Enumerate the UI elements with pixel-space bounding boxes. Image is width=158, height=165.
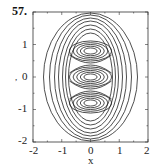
x-tick-1: 1 bbox=[117, 145, 123, 156]
y-tick-neg1: -1 bbox=[18, 103, 27, 114]
plot-frame bbox=[33, 12, 148, 142]
x-tick-neg2: -2 bbox=[29, 145, 38, 156]
y-tick-0: 0 bbox=[22, 71, 28, 82]
contour-lines bbox=[44, 13, 138, 141]
y-tick-neg2: -2 bbox=[18, 135, 27, 146]
y-axis-marker: , bbox=[15, 72, 17, 83]
x-axis-label: x bbox=[88, 155, 94, 165]
x-tick-neg1: -1 bbox=[58, 145, 67, 156]
x-tick-2: 2 bbox=[144, 145, 150, 156]
y-tick-1: 1 bbox=[22, 39, 28, 50]
axis-ticks bbox=[33, 12, 148, 142]
